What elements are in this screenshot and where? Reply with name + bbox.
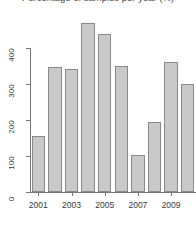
bar-2008: [148, 122, 161, 192]
x-axis-tick: [138, 192, 139, 196]
y-axis-tick: [26, 48, 30, 49]
y-axis-tick-label: 300: [0, 79, 24, 89]
y-axis-tick: [26, 192, 30, 193]
x-axis-tick-label: 2005: [95, 200, 114, 210]
bar-2002: [48, 67, 61, 192]
bar-2006: [115, 66, 128, 192]
bar-2010: [181, 84, 194, 192]
x-axis-tick-label: 2001: [29, 200, 48, 210]
x-axis-tick: [38, 192, 39, 196]
x-axis-tick-label: 2007: [128, 200, 147, 210]
y-axis-tick-label: 0: [0, 187, 24, 197]
y-axis-tick: [26, 120, 30, 121]
bar-2009: [164, 62, 177, 192]
bar-2003: [65, 69, 78, 192]
y-axis-tick: [26, 84, 30, 85]
bar-2007: [131, 155, 144, 192]
bar-2004: [81, 23, 94, 192]
x-axis-tick-label: 2003: [62, 200, 81, 210]
y-axis-tick-label: 100: [0, 151, 24, 161]
bar-2001: [32, 136, 45, 192]
x-axis-tick: [72, 192, 73, 196]
x-axis-tick: [105, 192, 106, 196]
bar-chart: Percentage of samples per year (%) 01002…: [0, 0, 196, 226]
x-axis-tick-label: 2009: [162, 200, 181, 210]
y-axis-tick-label: 200: [0, 115, 24, 125]
x-axis-tick: [171, 192, 172, 196]
y-axis-tick: [26, 156, 30, 157]
bar-2005: [98, 34, 111, 192]
plot-area: 0100200300400 20012003200520072009: [0, 0, 196, 226]
y-axis-tick-label: 400: [0, 43, 24, 53]
